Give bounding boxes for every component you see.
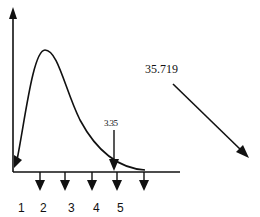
tick-arrow-icon	[87, 172, 97, 191]
tick-arrow-icon	[112, 172, 122, 191]
diagonal-arrow	[173, 84, 249, 158]
tick-arrows	[35, 172, 149, 191]
marker-arrowhead-icon	[109, 159, 119, 171]
tick-label: 3	[68, 201, 75, 215]
tick-arrow-icon	[139, 172, 149, 191]
marker-arrow	[109, 130, 119, 171]
tick-arrow-icon	[60, 172, 70, 191]
y-axis-arrow-icon	[9, 7, 17, 19]
distribution-curve	[17, 50, 145, 170]
tick-arrow-icon	[35, 172, 45, 191]
distribution-diagram: 3.35 1 2 3 4 5 35.719	[0, 0, 260, 217]
tick-label: 2	[40, 201, 47, 215]
tick-label: 5	[117, 201, 124, 215]
tick-labels: 1 2 3 4 5	[18, 201, 124, 215]
tick-label: 4	[93, 201, 100, 215]
tick-label: 1	[18, 201, 25, 215]
value-label: 35.719	[145, 62, 178, 76]
marker-label: 3.35	[104, 118, 118, 128]
y-axis	[9, 7, 17, 172]
